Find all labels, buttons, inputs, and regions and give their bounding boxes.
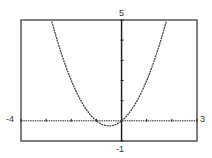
- plot-area: [0, 0, 212, 158]
- plot-frame: [21, 20, 197, 141]
- parabola-curve: [52, 22, 166, 126]
